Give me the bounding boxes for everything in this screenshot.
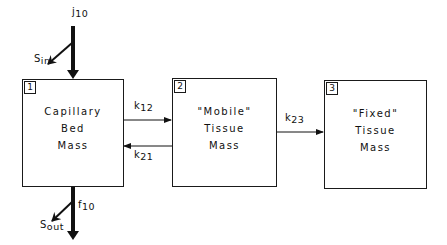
compartment-number: 2 bbox=[174, 80, 186, 93]
compartment-label: "Fixed" Tissue Mass bbox=[325, 105, 426, 156]
compartment-number: 3 bbox=[326, 82, 338, 95]
label-s-out: Sout bbox=[40, 219, 64, 230]
compartment-label: "Mobile" Tissue Mass bbox=[173, 103, 276, 154]
compartment-3: 3 "Fixed" Tissue Mass bbox=[324, 80, 427, 189]
label-k21: k21 bbox=[134, 149, 153, 160]
compartment-2: 2 "Mobile" Tissue Mass bbox=[172, 78, 277, 187]
compartment-number: 1 bbox=[24, 81, 36, 94]
label-f10: f10 bbox=[78, 199, 95, 210]
label-s-in: Sin bbox=[34, 53, 51, 64]
label-k23: k23 bbox=[285, 112, 304, 123]
label-j10: j10 bbox=[72, 6, 88, 17]
compartment-label: Capillary Bed Mass bbox=[23, 103, 123, 154]
label-k12: k12 bbox=[134, 100, 153, 111]
compartment-1: 1 Capillary Bed Mass bbox=[22, 79, 124, 187]
